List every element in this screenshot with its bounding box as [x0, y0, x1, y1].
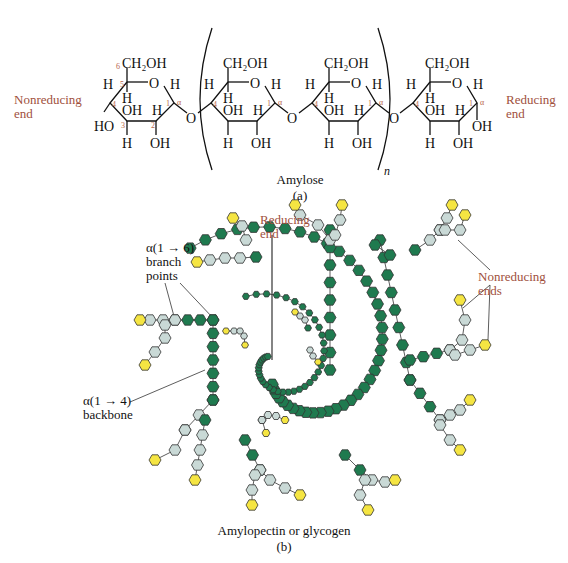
label-line: branch: [146, 255, 194, 269]
glucose-unit: [389, 305, 401, 315]
glucose-unit: [291, 299, 298, 305]
glucose-unit: [409, 245, 421, 255]
glucose-unit: [241, 333, 248, 339]
glucose-unit: [194, 445, 206, 455]
glucose-unit: [258, 417, 266, 424]
glucose-unit: [404, 375, 416, 385]
glucose-unit: [414, 388, 426, 398]
glucose-unit: [239, 435, 251, 445]
glucose-unit: [199, 235, 211, 245]
glucose-unit: [319, 332, 326, 338]
glucose-unit: [169, 315, 181, 325]
glucose-unit: [393, 322, 405, 332]
glucose-unit: [354, 490, 366, 500]
glucose-unit: [397, 340, 409, 350]
glucose-unit: [312, 220, 324, 230]
glucose-unit: [404, 355, 416, 365]
glucose-unit: [431, 348, 443, 358]
glucose-unit: [320, 340, 327, 346]
glucose-unit: [227, 213, 239, 223]
glucose-unit: [459, 210, 471, 220]
glucose-unit: [305, 325, 312, 331]
glucose-unit: [362, 505, 374, 515]
glucose-unit: [215, 229, 227, 239]
glucose-unit: [263, 291, 270, 297]
glucose-unit: [250, 252, 262, 262]
glucose-unit: [344, 255, 356, 265]
glucose-unit: [159, 333, 171, 343]
glucose-unit: [454, 445, 466, 455]
glucose-unit: [264, 475, 276, 485]
glucose-unit: [307, 347, 314, 353]
glucose-unit: [454, 225, 466, 235]
glucose-unit: [246, 485, 258, 495]
glucose-unit: [207, 328, 219, 338]
nonreducing-ends-label: Nonreducing ends: [478, 270, 546, 298]
glucose-unit: [384, 250, 396, 260]
glucose-unit: [373, 356, 385, 366]
glucose-unit: [302, 317, 309, 323]
glucose-unit: [262, 430, 270, 437]
glucose-unit: [207, 315, 219, 325]
glucose-unit: [339, 450, 351, 460]
glucose-unit: [289, 200, 301, 210]
glucose-unit: [367, 287, 379, 297]
glucose-unit: [194, 315, 206, 325]
glucose-unit: [324, 295, 336, 305]
glucose-unit: [207, 342, 219, 352]
glucose-unit: [234, 253, 246, 263]
label-line: points: [146, 269, 194, 283]
glucose-unit: [324, 312, 336, 322]
glucose-unit: [207, 368, 219, 378]
glucose-unit: [249, 470, 261, 480]
glucose-unit: [382, 270, 394, 280]
amylopectin-caption: Amylopectin or glycogen (b): [184, 523, 384, 555]
glucose-unit: [454, 295, 466, 305]
glucose-unit: [253, 291, 260, 297]
glucose-unit: [376, 334, 388, 344]
label-line: ends: [478, 284, 546, 298]
glucose-unit: [169, 445, 181, 455]
label-line: α(1 → 6): [146, 241, 194, 255]
backbone-label: α(1 → 4) backbone: [83, 394, 133, 422]
glucose-unit: [207, 355, 219, 365]
glucose-unit: [310, 353, 317, 359]
glucose-unit: [207, 395, 219, 405]
caption-title: Amylopectin or glycogen: [184, 523, 384, 539]
label-line: Reducing: [260, 213, 310, 227]
glucose-unit: [464, 395, 476, 405]
branch-points-label: α(1 → 6) branch points: [146, 241, 194, 283]
glucose-unit: [334, 215, 346, 225]
glucose-unit: [199, 415, 211, 425]
glucose-unit: [197, 430, 209, 440]
glucose-unit: [389, 475, 401, 485]
glucose-unit: [375, 311, 387, 321]
glucose-unit: [479, 340, 491, 350]
glucose-unit: [336, 200, 348, 210]
glucose-unit: [308, 232, 320, 242]
glucose-unit: [375, 345, 387, 355]
glucose-unit: [159, 320, 171, 330]
glucose-unit: [240, 235, 252, 245]
glucose-unit: [219, 253, 231, 263]
glucose-unit: [459, 315, 471, 325]
glucose-unit: [379, 477, 391, 487]
glucose-unit: [369, 240, 381, 250]
glucose-unit: [273, 292, 280, 298]
glucose-unit: [179, 425, 191, 435]
glucose-unit: [446, 200, 458, 210]
caption-sub: (b): [184, 539, 384, 555]
glucose-unit: [454, 405, 466, 415]
glucose-unit: [283, 295, 290, 301]
glucose-unit: [417, 352, 429, 362]
glucose-unit: [316, 324, 323, 330]
glucose-unit: [247, 450, 259, 460]
glucose-unit: [281, 417, 289, 424]
glucose-unit: [279, 483, 291, 493]
glucose-unit: [264, 353, 271, 359]
glucose-unit: [204, 255, 216, 265]
glucose-unit: [353, 265, 365, 275]
glucose-unit: [441, 213, 453, 223]
glucose-unit: [444, 410, 456, 420]
glucose-unit: [444, 435, 456, 445]
